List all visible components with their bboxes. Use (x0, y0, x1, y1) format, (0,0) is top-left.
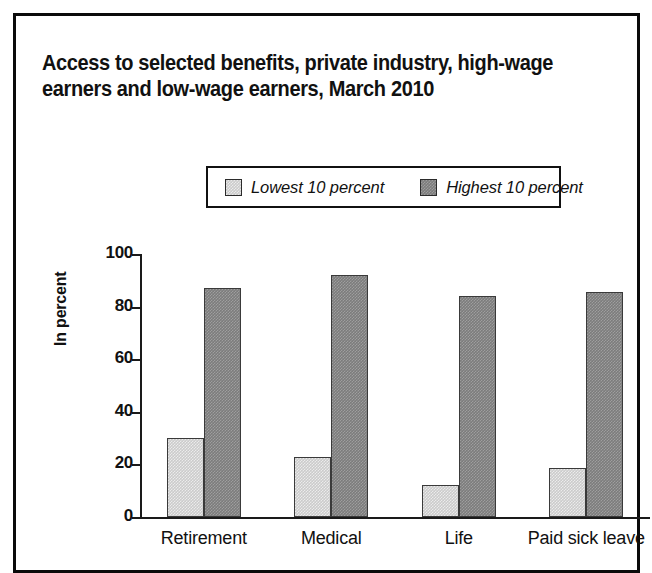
legend-label-lowest: Lowest 10 percent (251, 178, 384, 197)
y-tick-label: 100 (106, 243, 133, 263)
bar-life-highest (459, 296, 496, 517)
chart-legend: Lowest 10 percent Highest 10 percent (206, 166, 561, 208)
bar-life-lowest (422, 485, 459, 517)
x-axis-line (140, 517, 650, 519)
legend-entry-lowest: Lowest 10 percent (225, 168, 384, 206)
y-axis-line (140, 254, 142, 517)
y-axis-title: In percent (52, 272, 70, 346)
y-tick-mark (132, 359, 140, 361)
bar-paid-sick-leave-highest (586, 292, 623, 517)
plot-area: 020406080100 (140, 254, 650, 517)
y-tick-mark (132, 254, 140, 256)
legend-entry-highest: Highest 10 percent (420, 168, 583, 206)
x-label-paid-sick-leave: Paid sick leave (496, 528, 652, 549)
y-tick-mark (132, 412, 140, 414)
y-tick-label: 60 (115, 348, 133, 368)
y-tick-mark (132, 517, 140, 519)
chart-title: Access to selected benefits, private ind… (42, 50, 563, 102)
bar-medical-highest (331, 275, 368, 517)
y-tick-label: 20 (115, 453, 133, 473)
bar-retirement-highest (204, 288, 241, 517)
legend-swatch-lowest (225, 179, 242, 196)
legend-swatch-highest (420, 179, 437, 196)
y-tick-mark (132, 464, 140, 466)
bar-medical-lowest (294, 457, 331, 517)
legend-label-highest: Highest 10 percent (446, 178, 583, 197)
y-tick-label: 0 (124, 506, 133, 526)
bar-retirement-lowest (167, 438, 204, 517)
figure-frame: Access to selected benefits, private ind… (13, 13, 640, 573)
y-tick-label: 80 (115, 296, 133, 316)
bar-paid-sick-leave-lowest (549, 468, 586, 517)
y-tick-label: 40 (115, 401, 133, 421)
y-tick-mark (132, 307, 140, 309)
